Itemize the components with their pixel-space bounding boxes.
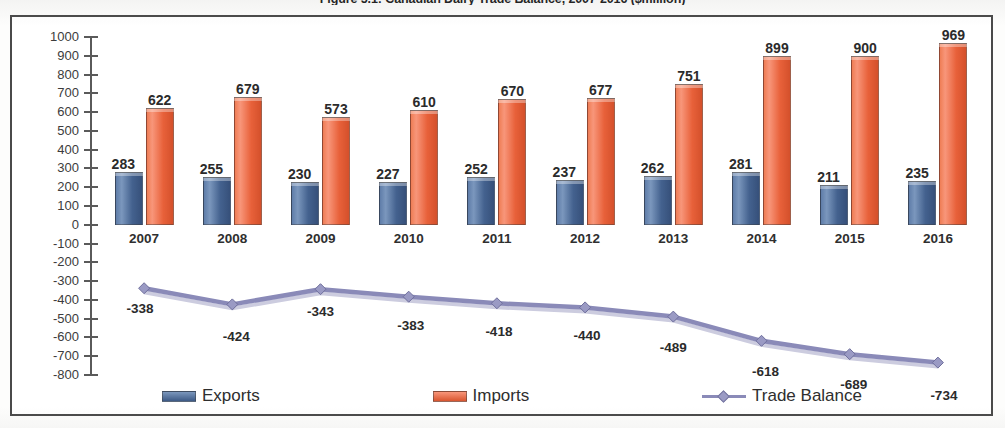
export-bar[interactable]: 281 [732, 172, 760, 225]
import-bar[interactable]: 610 [410, 110, 438, 225]
y-axis-tick-label: 100 [17, 199, 79, 212]
import-bar-value-label: 900 [854, 41, 877, 55]
export-bar-value-label: 211 [817, 170, 840, 184]
export-bar[interactable]: 230 [291, 182, 319, 225]
y-axis-tick-label: 1000 [17, 30, 79, 43]
import-bar-value-label: 677 [589, 83, 612, 97]
x-axis-tick-label: 2011 [453, 229, 541, 251]
y-axis-tick-label: 200 [17, 180, 79, 193]
y-axis-tick [84, 280, 98, 282]
import-bar[interactable]: 573 [322, 117, 350, 225]
y-axis-tick [84, 74, 98, 76]
x-axis-tick-label: 2013 [629, 229, 717, 251]
x-axis-tick-label: 2016 [894, 229, 982, 251]
bar-group: 211900 [806, 37, 894, 225]
import-bar[interactable]: 969 [939, 43, 967, 225]
y-axis-tick-label: -500 [17, 312, 79, 325]
import-bar[interactable]: 670 [498, 99, 526, 225]
trade-balance-value-label: -343 [307, 305, 334, 319]
export-bar[interactable]: 235 [908, 181, 936, 225]
x-axis-tick-label: 2012 [541, 229, 629, 251]
trade-balance-value-label: -489 [660, 341, 687, 355]
bar-group: 262751 [629, 37, 717, 225]
trade-balance-marker[interactable] [139, 283, 150, 294]
export-bar[interactable]: 283 [115, 172, 143, 225]
trade-balance-value-label: -418 [485, 325, 512, 339]
import-bar[interactable]: 899 [763, 56, 791, 225]
export-bar-value-label: 255 [200, 162, 223, 176]
trade-balance-marker[interactable] [756, 335, 767, 346]
legend-item[interactable]: Exports [162, 386, 260, 406]
import-bar-value-label: 969 [942, 28, 965, 42]
y-axis-tick [84, 299, 98, 301]
export-bar-value-label: 227 [376, 167, 399, 181]
import-bar-value-label: 751 [677, 69, 700, 83]
legend-item[interactable]: Trade Balance [702, 386, 862, 406]
y-axis-tick-label: -400 [17, 293, 79, 306]
legend-label: Trade Balance [752, 386, 862, 406]
y-axis-tick [84, 111, 98, 113]
y-axis-tick-label: 500 [17, 124, 79, 137]
trade-balance-marker[interactable] [668, 311, 679, 322]
x-axis-tick-label: 2009 [276, 229, 364, 251]
y-axis-tick-label: -600 [17, 330, 79, 343]
import-bar[interactable]: 900 [851, 56, 879, 225]
y-axis-tick [84, 55, 98, 57]
export-bar[interactable]: 255 [203, 177, 231, 225]
y-axis-tick [84, 243, 98, 245]
trade-balance-marker[interactable] [227, 299, 238, 310]
trade-balance-marker[interactable] [315, 284, 326, 295]
y-axis-tick [84, 130, 98, 132]
export-bar-value-label: 237 [553, 165, 576, 179]
y-axis-tick [84, 92, 98, 94]
import-bar-value-label: 670 [501, 84, 524, 98]
export-bar-value-label: 230 [288, 167, 311, 181]
y-axis-tick-label: 400 [17, 143, 79, 156]
import-bar[interactable]: 622 [146, 108, 174, 225]
trade-balance-marker[interactable] [491, 298, 502, 309]
y-axis-tick-label: 800 [17, 68, 79, 81]
export-bar-value-label: 283 [112, 157, 135, 171]
y-axis-tick-label: 300 [17, 161, 79, 174]
trade-balance-marker[interactable] [932, 357, 943, 368]
export-bar[interactable]: 227 [379, 182, 407, 225]
bar-group: 252670 [453, 37, 541, 225]
import-bar-value-label: 610 [413, 95, 436, 109]
trade-balance-line[interactable] [144, 288, 938, 362]
y-axis-tick [84, 355, 98, 357]
import-bar-value-label: 573 [324, 102, 347, 116]
x-axis-tick-label: 2015 [806, 229, 894, 251]
trade-balance-value-label: -440 [574, 329, 601, 343]
bar-group: 230573 [276, 37, 364, 225]
legend-label: Exports [202, 386, 260, 406]
import-bar[interactable]: 751 [675, 84, 703, 225]
trade-balance-value-label: -618 [752, 365, 779, 379]
y-axis-tick-label: -800 [17, 368, 79, 381]
y-axis-tick [84, 36, 98, 38]
trade-balance-line-shadow [144, 292, 938, 366]
export-bar[interactable]: 252 [467, 177, 495, 224]
trade-balance-marker[interactable] [580, 302, 591, 313]
trade-balance-marker[interactable] [403, 291, 414, 302]
trade-balance-value-label: -734 [930, 389, 957, 403]
export-bar[interactable]: 211 [820, 185, 848, 225]
import-bar-value-label: 679 [236, 82, 259, 96]
y-axis-tick-label: 600 [17, 105, 79, 118]
export-bar[interactable]: 237 [556, 180, 584, 225]
bar-group: 281899 [717, 37, 805, 225]
export-bar-value-label: 252 [464, 162, 487, 176]
import-bar[interactable]: 677 [587, 98, 615, 225]
export-bar[interactable]: 262 [644, 176, 672, 225]
y-axis-tick [84, 318, 98, 320]
y-axis-tick [84, 261, 98, 263]
export-bar-value-label: 281 [729, 157, 752, 171]
y-axis-tick-label: -700 [17, 349, 79, 362]
export-bar-value-label: 262 [641, 161, 664, 175]
plot-area: 10009008007006005004003002001000-100-200… [12, 17, 995, 418]
legend-item[interactable]: Imports [433, 386, 530, 406]
legend-label: Imports [473, 386, 530, 406]
trade-balance-value-label: -424 [223, 330, 250, 344]
trade-balance-value-label: -383 [397, 319, 424, 333]
trade-balance-marker[interactable] [844, 349, 855, 360]
import-bar[interactable]: 679 [234, 97, 262, 225]
